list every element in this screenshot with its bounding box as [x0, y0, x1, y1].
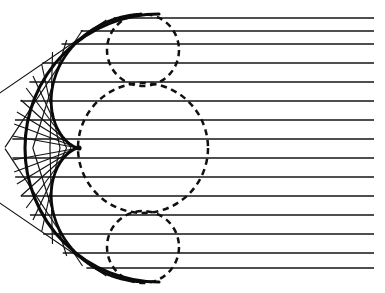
- focus-point-group: [76, 145, 81, 150]
- paraxial-focus-point: [76, 145, 81, 150]
- figure-root: Caustic of a spherical mirror Parallel h…: [0, 0, 385, 293]
- caustic-diagram: Caustic of a spherical mirror Parallel h…: [0, 0, 385, 293]
